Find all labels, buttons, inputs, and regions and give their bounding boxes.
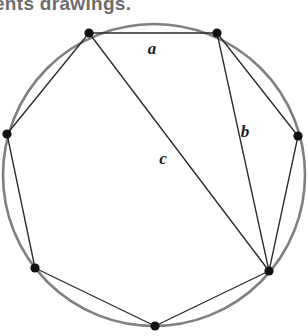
- chord-v5-v6: [35, 268, 155, 326]
- chord-v7-v1: [7, 33, 89, 134]
- label-a: a: [148, 39, 157, 58]
- label-b: b: [241, 122, 250, 141]
- chord-c: [89, 33, 269, 271]
- label-c: c: [159, 149, 167, 168]
- vertex-bottom-left: [30, 263, 39, 272]
- chord-v4-v5: [155, 271, 269, 326]
- vertex-right: [293, 131, 302, 140]
- vertex-top-right: [212, 28, 221, 37]
- vertex-top-left: [84, 28, 93, 37]
- circumscribed-circle: [3, 24, 305, 326]
- vertex-bottom-right: [264, 266, 273, 275]
- label-layer: abc: [148, 39, 250, 168]
- cyclic-polygon-figure: abc: [0, 0, 308, 336]
- vertex-bottom: [150, 321, 159, 330]
- chord-layer: [7, 33, 298, 326]
- vertex-left: [2, 129, 11, 138]
- chord-v2-v3: [217, 33, 298, 136]
- figure-page: ents drawings. abc: [0, 0, 308, 336]
